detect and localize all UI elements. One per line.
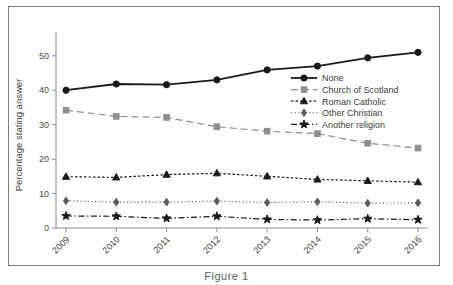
data-point-marker (213, 169, 220, 175)
data-point-marker (164, 198, 169, 206)
y-axis-title: Percentage stating answer (13, 79, 24, 191)
x-tick-label: 2013 (251, 234, 272, 255)
data-point-marker (301, 75, 307, 81)
x-tick-label: 2014 (302, 234, 323, 255)
x-tick-label: 2009 (50, 234, 71, 255)
data-point-marker (415, 49, 421, 55)
data-point-marker (112, 212, 120, 220)
data-point-marker (315, 131, 321, 137)
data-point-marker (315, 198, 320, 206)
data-point-marker (415, 199, 420, 207)
data-point-marker (63, 197, 68, 205)
series-roman-catholic (62, 169, 421, 184)
data-point-marker (301, 109, 306, 117)
data-point-marker (265, 199, 270, 207)
data-point-marker (264, 67, 270, 73)
data-point-marker (414, 215, 422, 223)
series-another-religion (62, 212, 422, 224)
data-point-marker (163, 82, 169, 88)
data-point-marker (113, 174, 120, 180)
data-point-marker (213, 212, 221, 220)
legend-label: Church of Scotland (322, 85, 399, 95)
legend-label: Other Christian (322, 108, 383, 118)
y-tick-label: 20 (39, 154, 49, 164)
y-tick-label: 0 (44, 223, 49, 233)
x-tick-label: 2011 (151, 234, 172, 255)
legend-item-church-of-scotland[interactable]: Church of Scotland (291, 85, 399, 95)
series-other-christian (63, 197, 420, 207)
data-point-marker (301, 87, 307, 93)
x-tick-label: 2012 (201, 234, 222, 255)
y-tick-label: 10 (39, 189, 49, 199)
legend-label: Another religion (322, 120, 385, 130)
legend-item-none[interactable]: None (291, 73, 344, 83)
data-point-marker (364, 214, 372, 222)
line-chart: 0102030405020092010201120122013201420152… (8, 6, 440, 268)
data-point-marker (365, 140, 371, 146)
x-tick-label: 2016 (402, 234, 423, 255)
data-point-marker (414, 178, 421, 184)
data-point-marker (113, 114, 119, 120)
data-point-marker (314, 63, 320, 69)
y-tick-label: 40 (39, 85, 49, 95)
data-point-marker (162, 214, 170, 222)
figure-container: 0102030405020092010201120122013201420152… (0, 0, 453, 285)
data-point-marker (214, 124, 220, 130)
data-point-marker (62, 173, 69, 179)
x-tick-label: 2010 (100, 234, 121, 255)
data-point-marker (263, 215, 271, 223)
legend-item-other-christian[interactable]: Other Christian (291, 108, 383, 118)
data-point-marker (214, 197, 219, 205)
data-point-marker (113, 81, 119, 87)
data-point-marker (300, 120, 308, 128)
legend-label: Roman Catholic (322, 97, 387, 107)
x-tick-label: 2015 (352, 234, 373, 255)
data-point-marker (164, 115, 170, 121)
data-point-marker (214, 77, 220, 83)
y-tick-label: 30 (39, 120, 49, 130)
data-point-marker (365, 55, 371, 61)
data-point-marker (264, 128, 270, 134)
y-tick-label: 50 (39, 51, 49, 61)
data-point-marker (415, 145, 421, 151)
data-point-marker (63, 107, 69, 113)
data-point-marker (365, 199, 370, 207)
figure-caption: Figure 1 (0, 270, 453, 285)
legend-label: None (322, 73, 344, 83)
legend-item-roman-catholic[interactable]: Roman Catholic (291, 97, 387, 107)
data-point-marker (313, 216, 321, 224)
data-point-marker (114, 198, 119, 206)
data-point-marker (62, 212, 70, 220)
data-point-marker (63, 87, 69, 93)
data-point-marker (163, 171, 170, 177)
legend-item-another-religion[interactable]: Another religion (291, 120, 385, 130)
chart-legend: NoneChurch of ScotlandRoman CatholicOthe… (291, 73, 399, 129)
